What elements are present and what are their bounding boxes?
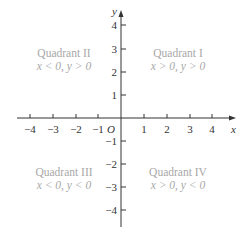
x-tick-label: 3 (187, 123, 193, 135)
quadrant-4-label: Quadrant IV x > 0, y < 0 (149, 166, 207, 192)
y-tick-label: 2 (112, 66, 118, 78)
quadrant-condition: x < 0, y > 0 (36, 60, 92, 73)
quadrant-name: Quadrant II (37, 47, 90, 59)
y-axis-label: y (111, 5, 117, 17)
x-axis-arrow-icon (229, 116, 236, 121)
y-tick-label: −3 (105, 181, 117, 193)
x-tick-labels: −4 −3 −2 −1 1 2 3 4 (24, 123, 215, 135)
y-tick-label: −2 (105, 158, 117, 170)
coordinate-plane: y x O −4 −3 −2 −1 1 2 3 4 4 3 2 1 −1 −2 … (0, 0, 252, 241)
quadrant-condition: x > 0, y < 0 (150, 179, 206, 192)
x-tick-label: −4 (24, 123, 36, 135)
x-tick-label: −3 (47, 123, 59, 135)
x-tick-label: 1 (141, 123, 147, 135)
quadrant-condition: x > 0, y > 0 (150, 60, 206, 73)
x-axis-label: x (230, 123, 236, 135)
quadrant-2-label: Quadrant II x < 0, y > 0 (36, 47, 92, 73)
y-axis-arrow-icon (119, 10, 124, 17)
y-tick-label: −4 (105, 204, 117, 216)
quadrant-name: Quadrant I (153, 47, 203, 59)
y-tick-label: 3 (112, 43, 118, 55)
y-tick-label: 1 (112, 89, 118, 101)
quadrant-3-label: Quadrant III x < 0, y < 0 (35, 166, 92, 192)
quadrant-condition: x < 0, y < 0 (36, 179, 92, 192)
y-tick-label: 4 (112, 19, 118, 31)
y-tick-label: −1 (105, 135, 117, 147)
x-tick-label: −1 (92, 123, 104, 135)
x-tick-label: 2 (164, 123, 170, 135)
origin-label: O (107, 123, 115, 135)
quadrant-name: Quadrant IV (149, 166, 207, 178)
x-axis (17, 114, 236, 121)
quadrant-name: Quadrant III (35, 166, 92, 178)
x-tick-label: 4 (209, 123, 215, 135)
quadrant-1-label: Quadrant I x > 0, y > 0 (150, 47, 206, 73)
x-tick-label: −2 (70, 123, 82, 135)
